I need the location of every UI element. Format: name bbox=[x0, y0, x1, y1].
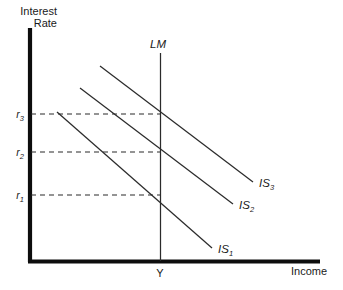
is-lm-diagram: Interest Rate Income r3 r2 r1 LM IS3 bbox=[0, 0, 343, 290]
y-axis-title-line1: Interest bbox=[20, 5, 57, 17]
is3-label-subscript: 3 bbox=[270, 183, 275, 192]
y-tick-r2-subscript: 2 bbox=[19, 152, 25, 161]
y-tick-label-r3: r3 bbox=[16, 108, 25, 123]
lm-curve-label: LM bbox=[150, 38, 166, 50]
y-axis-title-line2: Rate bbox=[34, 17, 57, 29]
is1-label-base: IS bbox=[218, 243, 229, 255]
diagram-canvas: Interest Rate Income r3 r2 r1 LM IS3 bbox=[0, 0, 343, 290]
is3-curve bbox=[100, 66, 253, 182]
x-axis-title: Income bbox=[291, 265, 327, 277]
y-tick-r3-subscript: 3 bbox=[20, 114, 25, 123]
is3-label-base: IS bbox=[259, 177, 270, 189]
is2-label-base: IS bbox=[239, 199, 250, 211]
y-tick-r1-subscript: 1 bbox=[20, 195, 24, 204]
is2-curve-label: IS2 bbox=[239, 199, 255, 214]
is2-label-subscript: 2 bbox=[249, 205, 255, 214]
x-tick-label-y: Y bbox=[156, 267, 164, 279]
is2-curve bbox=[80, 88, 233, 204]
y-tick-label-r2: r2 bbox=[16, 146, 25, 161]
is1-curve bbox=[57, 112, 212, 248]
is1-curve-label: IS1 bbox=[218, 243, 233, 258]
is3-curve-label: IS3 bbox=[259, 177, 275, 192]
y-tick-label-r1: r1 bbox=[16, 189, 24, 204]
is1-label-subscript: 1 bbox=[229, 249, 233, 258]
